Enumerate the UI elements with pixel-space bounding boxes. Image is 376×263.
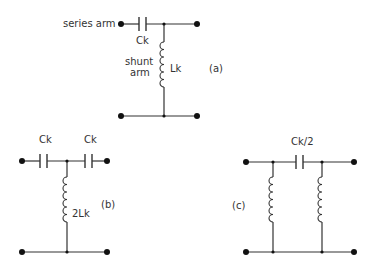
terminal bbox=[19, 158, 25, 164]
capacitor-ck1-label: Ck bbox=[39, 134, 52, 145]
terminal bbox=[19, 249, 25, 255]
capacitor-ck2-label: Ck bbox=[84, 134, 97, 145]
inductor-lk bbox=[160, 42, 164, 87]
inductor-lk-label: Lk bbox=[170, 63, 182, 74]
circuit-b: Ck Ck 2Lk (b) bbox=[19, 134, 115, 255]
terminal bbox=[351, 249, 357, 255]
junction bbox=[65, 159, 68, 162]
circuit-c-label: (c) bbox=[232, 200, 245, 211]
junction bbox=[320, 250, 323, 253]
capacitor-ck-half-label: Ck/2 bbox=[291, 136, 314, 147]
junction bbox=[271, 250, 274, 253]
junction bbox=[320, 160, 323, 163]
terminal bbox=[351, 159, 357, 165]
terminal bbox=[104, 158, 110, 164]
terminal bbox=[243, 159, 249, 165]
series-arm-label: series arm bbox=[63, 18, 116, 29]
circuit-a: series arm Ck shunt arm Lk (a) bbox=[63, 17, 223, 119]
inductor-2lk-label: 2Lk bbox=[72, 208, 90, 219]
circuit-a-label: (a) bbox=[209, 63, 223, 74]
junction bbox=[162, 22, 165, 25]
capacitor-ck-label: Ck bbox=[136, 35, 149, 46]
arm-label: arm bbox=[130, 67, 150, 78]
terminal bbox=[118, 113, 124, 119]
circuit-c: Ck/2 (c) bbox=[232, 136, 357, 255]
terminal bbox=[118, 21, 124, 27]
inductor-right bbox=[318, 177, 322, 222]
junction bbox=[65, 250, 68, 253]
inductor-left bbox=[269, 177, 273, 222]
junction bbox=[162, 114, 165, 117]
circuit-diagram: series arm Ck shunt arm Lk (a) Ck Ck bbox=[0, 0, 376, 263]
circuit-b-label: (b) bbox=[101, 199, 115, 210]
junction bbox=[271, 160, 274, 163]
shunt-label: shunt bbox=[125, 56, 153, 67]
inductor-2lk bbox=[63, 177, 67, 222]
terminal bbox=[194, 113, 200, 119]
terminal bbox=[243, 249, 249, 255]
terminal bbox=[194, 21, 200, 27]
terminal bbox=[104, 249, 110, 255]
